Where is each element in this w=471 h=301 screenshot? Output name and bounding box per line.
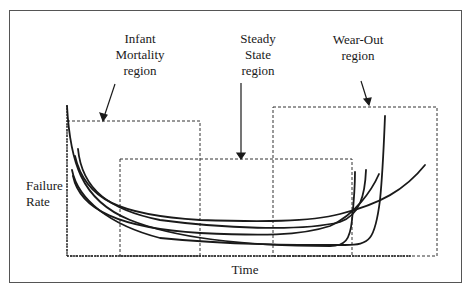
- infant-arrowhead-icon: [100, 113, 107, 121]
- infant-arrow: [104, 84, 115, 117]
- infant-region-box: [67, 121, 200, 256]
- bathtub-plot: [0, 0, 471, 301]
- wearout-arrow: [361, 81, 367, 100]
- curve-4: [72, 116, 385, 245]
- wearout-arrowhead-icon: [364, 98, 371, 105]
- steady-arrowhead-icon: [237, 153, 245, 159]
